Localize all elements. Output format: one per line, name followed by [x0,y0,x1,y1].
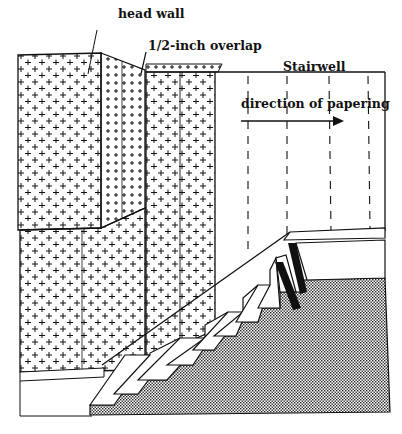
landing-band [284,228,385,240]
stairwell-label: Stairwell [283,61,345,74]
head-wall-side [101,53,145,228]
direction-arrow [241,116,344,126]
head-wall-front [18,53,101,230]
stairwell-wallpaper-diagram: head wall 1/2-inch overlap Stairwell dir… [0,0,402,434]
head-wall-label: head wall [118,8,185,21]
overlap-label: 1/2-inch overlap [148,40,262,53]
direction-label: direction of papering [241,98,390,111]
papered-strips [146,64,222,360]
